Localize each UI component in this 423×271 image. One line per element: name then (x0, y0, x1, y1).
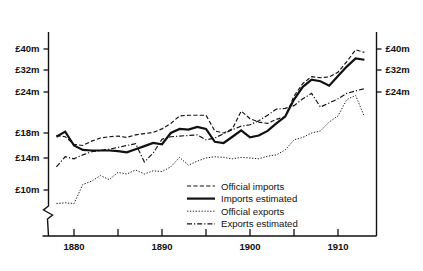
series-line-exports-estimated (56, 89, 364, 167)
chart-legend: Official importsImports estimatedOfficia… (187, 181, 298, 230)
x-axis-ticks: 1880189019001910 (63, 229, 348, 252)
legend-label-official-exports: Official exports (221, 206, 284, 217)
trade-line-chart: £10m£14m£18m£24m£32m£40m £24m£32m£40m 18… (0, 0, 423, 271)
legend-label-exports-estimated: Exports estimated (221, 218, 298, 229)
y-axis-tick-label-left: £24m (15, 86, 39, 97)
legend-label-official-imports: Official imports (221, 181, 284, 192)
y-axis-tick-label-left: £14m (15, 152, 39, 163)
data-series-group (56, 50, 364, 204)
chart-container: £10m£14m£18m£24m£32m£40m £24m£32m£40m 18… (0, 0, 423, 271)
y-axis-tick-label-left: £40m (15, 43, 39, 54)
x-axis-tick-label: 1890 (151, 241, 172, 252)
x-axis-tick-label: 1880 (63, 241, 84, 252)
right-axis-ticks: £24m£32m£40m (377, 43, 410, 97)
y-axis-tick-label-right: £24m (386, 86, 410, 97)
y-axis-tick-label-right: £40m (386, 43, 410, 54)
x-axis-tick-label: 1900 (239, 241, 260, 252)
y-axis-tick-label-left: £32m (15, 64, 39, 75)
legend-label-imports-estimated: Imports estimated (221, 193, 297, 204)
series-line-imports-estimated (56, 58, 364, 152)
left-axis-line (44, 32, 53, 236)
x-axis-tick-label: 1910 (327, 241, 348, 252)
y-axis-tick-label-left: £18m (15, 127, 39, 138)
y-axis-tick-label-left: £10m (15, 184, 39, 195)
y-axis-tick-label-right: £32m (386, 64, 410, 75)
left-axis-ticks: £10m£14m£18m£24m£32m£40m (15, 43, 48, 195)
series-line-official-imports (56, 50, 364, 146)
